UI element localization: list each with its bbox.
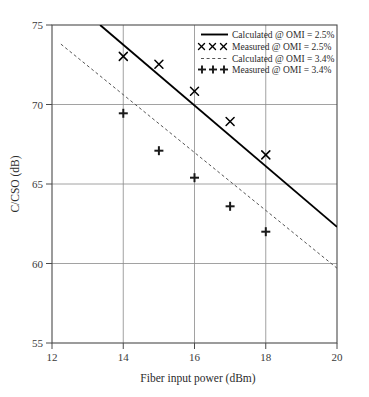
xtick-label-16: 16 [189, 351, 201, 363]
x-axis-title: Fiber input power (dBm) [140, 372, 255, 385]
ytick-label-75: 75 [32, 19, 44, 31]
y-axis-ticks [46, 25, 52, 343]
ytick-label-55: 55 [32, 337, 44, 349]
xtick-label-12: 12 [47, 351, 58, 363]
xtick-label-18: 18 [260, 351, 272, 363]
legend-plus-markers-icon [198, 66, 228, 74]
ytick-label-65: 65 [32, 178, 44, 190]
xtick-label-20: 20 [332, 351, 344, 363]
legend-label-measured-2-5: Measured @ OMI = 2.5% [232, 42, 331, 52]
y-axis-tick-labels: 75 70 65 60 55 [32, 19, 44, 349]
ytick-label-60: 60 [32, 258, 44, 270]
xtick-label-14: 14 [118, 351, 130, 363]
y-axis-title: C/CSO (dB) [9, 155, 22, 212]
scatter-plot: 75 70 65 60 55 12 14 16 18 20 Fiber inpu… [0, 0, 369, 397]
x-axis-ticks [52, 343, 337, 349]
legend-label-calculated-3-4: Calculated @ OMI = 3.4% [232, 54, 335, 64]
x-axis-tick-labels: 12 14 16 18 20 [47, 351, 344, 363]
chart-figure: 75 70 65 60 55 12 14 16 18 20 Fiber inpu… [0, 0, 369, 397]
legend-label-calculated-2-5: Calculated @ OMI = 2.5% [232, 30, 335, 40]
legend-label-measured-3-4: Measured @ OMI = 3.4% [232, 65, 331, 75]
ytick-label-70: 70 [32, 99, 44, 111]
